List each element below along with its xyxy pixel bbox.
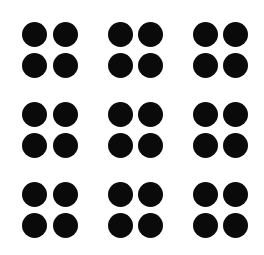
dot-circle [22, 182, 47, 207]
dot-circle [108, 133, 133, 158]
dot-circle [108, 102, 133, 127]
dot-circle [53, 22, 78, 47]
dot-circle [223, 22, 248, 47]
dot-circle [53, 133, 78, 158]
dot-circle [193, 133, 218, 158]
dot-circle [138, 133, 163, 158]
dot-circle [223, 213, 248, 238]
dot-circle [138, 22, 163, 47]
dot-circle [108, 182, 133, 207]
dot-circle [223, 102, 248, 127]
dot-circle [22, 213, 47, 238]
dot-circle [138, 102, 163, 127]
dot-circle [22, 22, 47, 47]
dot-circle [53, 213, 78, 238]
dot-circle [22, 102, 47, 127]
dot-circle [108, 213, 133, 238]
dot-circle [108, 22, 133, 47]
dot-circle [138, 182, 163, 207]
dot-circle [53, 53, 78, 78]
dot-circle [193, 22, 218, 47]
dot-circle [53, 182, 78, 207]
dot-circle [223, 133, 248, 158]
dot-circle [193, 182, 218, 207]
dot-circle [138, 213, 163, 238]
dot-circle [193, 102, 218, 127]
dot-circle [223, 53, 248, 78]
dot-circle [193, 213, 218, 238]
dot-circle [108, 53, 133, 78]
dot-circle [53, 102, 78, 127]
dot-circle [138, 53, 163, 78]
dot-grid-canvas [0, 0, 264, 255]
dot-circle [193, 53, 218, 78]
dot-circle [22, 53, 47, 78]
dot-circle [22, 133, 47, 158]
dot-circle [223, 182, 248, 207]
